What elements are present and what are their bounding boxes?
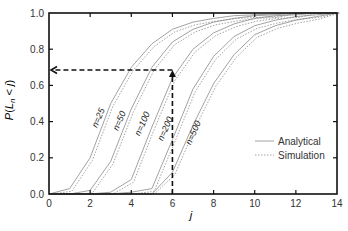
y-tick-label: 0.8: [30, 44, 44, 55]
cdf-chart: 024681012140.00.20.40.60.81.0 n=25n=50n=…: [0, 0, 348, 231]
curves: [49, 13, 339, 194]
x-tick-label: 2: [87, 198, 93, 209]
curve-label-n-50: n=50: [111, 109, 128, 132]
analytical-curve-n-100: [49, 13, 337, 194]
y-axis-label: P(Ln < j): [3, 80, 17, 120]
svg-text:P(Ln < j): P(Ln < j): [3, 80, 17, 120]
simulation-curve-n-200: [51, 13, 339, 194]
x-tick-label: 6: [170, 198, 176, 209]
simulation-curve-n-100: [51, 13, 339, 194]
plot-frame: [49, 13, 337, 194]
y-tick-label: 0.2: [30, 152, 44, 163]
x-tick-label: 10: [249, 198, 261, 209]
chart-svg: 024681012140.00.20.40.60.81.0 n=25n=50n=…: [0, 0, 348, 231]
x-tick-label: 8: [211, 198, 217, 209]
simulation-curve-n-50: [51, 13, 339, 194]
x-tick-label: 0: [46, 198, 52, 209]
y-tick-label: 0.4: [30, 116, 44, 127]
analytical-curve-n-50: [49, 13, 337, 194]
simulation-curve-n-500: [51, 13, 339, 194]
analytical-curve-n-500: [49, 13, 337, 194]
curve-labels: n=25n=50n=100n=200n=500: [90, 106, 203, 147]
x-tick-label: 12: [290, 198, 302, 209]
axes: [49, 13, 337, 194]
legend: Analytical Simulation: [255, 136, 325, 161]
x-tick-label: 4: [129, 198, 135, 209]
analytical-curve-n-25: [49, 13, 337, 194]
curve-label-n-500: n=500: [184, 119, 203, 146]
analytical-curve-n-200: [49, 13, 337, 194]
simulation-curve-n-25: [51, 13, 339, 194]
legend-simulation-label: Simulation: [278, 150, 325, 161]
x-axis-label: j: [188, 209, 193, 221]
y-tick-label: 0.6: [30, 80, 44, 91]
curve-label-n-25: n=25: [90, 106, 108, 129]
arrow-up-icon: [169, 70, 176, 77]
x-tick-label: 14: [331, 198, 343, 209]
y-tick-label: 1.0: [30, 8, 44, 19]
legend-analytical-label: Analytical: [278, 136, 321, 147]
y-tick-label: 0.0: [30, 189, 44, 200]
